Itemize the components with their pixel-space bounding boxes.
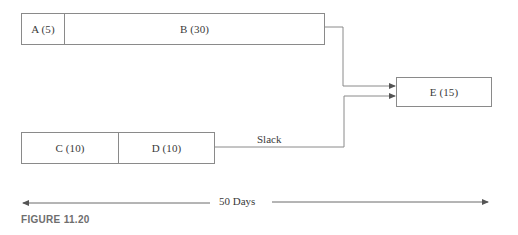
activity-b-label: B (30) — [180, 23, 209, 35]
activity-e-box: E (15) — [396, 77, 492, 107]
timeline-label: 50 Days — [219, 195, 255, 207]
slack-label: Slack — [257, 133, 281, 145]
activity-b-box: B (30) — [64, 13, 325, 45]
activity-d-box: D (10) — [118, 132, 215, 164]
activity-c-label: C (10) — [55, 142, 84, 154]
activity-a-box: A (5) — [21, 13, 65, 45]
network-diagram: A (5) B (30) C (10) D (10) E (15) Slack … — [0, 0, 518, 235]
activity-c-box: C (10) — [21, 132, 119, 164]
figure-caption: FIGURE 11.20 — [21, 214, 90, 225]
connector-d-to-e-slack — [214, 96, 395, 147]
activity-d-label: D (10) — [152, 142, 182, 154]
activity-e-label: E (15) — [430, 86, 458, 98]
activity-a-label: A (5) — [31, 23, 54, 35]
connector-b-to-e — [324, 27, 395, 86]
